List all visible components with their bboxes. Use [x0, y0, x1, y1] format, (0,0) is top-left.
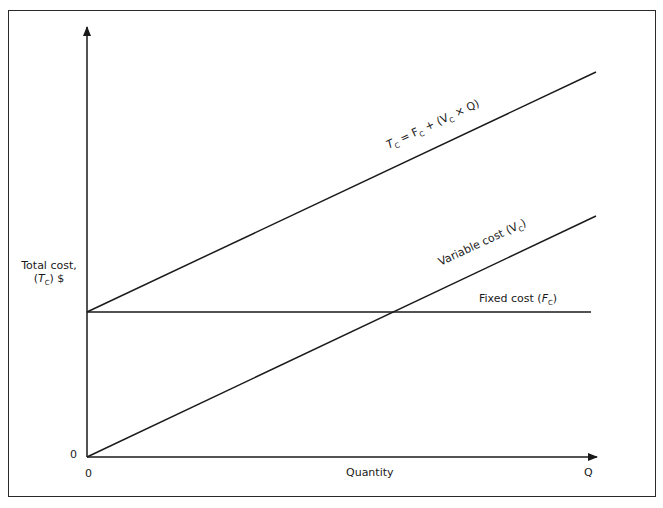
total-cost-line — [87, 72, 596, 312]
x-axis-end-label: Q — [584, 466, 593, 479]
fixed-cost-label: Fixed cost (FC) — [479, 292, 557, 310]
origin-x-label: 0 — [85, 467, 92, 480]
variable-cost-line — [87, 216, 596, 457]
y-axis-label-line2: (TC) $ — [18, 272, 80, 290]
x-axis-label: Quantity — [346, 466, 394, 479]
y-axis-label-line1: Total cost, — [18, 259, 80, 272]
origin-y-label: 0 — [70, 448, 77, 461]
y-axis-label: Total cost, (TC) $ — [18, 259, 80, 290]
chart-plot — [0, 0, 663, 508]
